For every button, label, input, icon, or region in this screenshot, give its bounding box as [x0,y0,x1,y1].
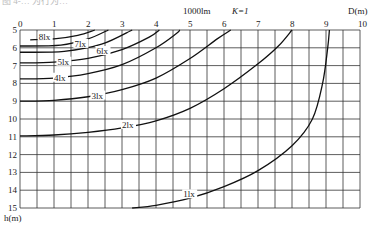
x-tick-label: 1 [52,19,57,29]
curve-label: 7lx [74,39,86,49]
x-tick-label: 7 [256,19,261,29]
y-tick-label: 7 [13,61,18,71]
luminous-flux-label: 1000lm [183,6,211,16]
k-factor-label: K=1 [231,6,249,16]
y-tick-label: 13 [8,167,18,177]
y-tick-label: 6 [13,43,18,53]
x-axis-ticks: 012345678910 [18,19,368,29]
isolux-chart: 012345678910 56789101112131415 8lx7lx6lx… [0,0,378,227]
curve-label: 4lx [54,73,66,83]
x-tick-label: 9 [324,19,329,29]
y-tick-label: 8 [13,78,18,88]
chart-grid [20,30,360,208]
y-tick-label: 9 [13,96,18,106]
y-axis-ticks: 56789101112131415 [8,25,18,213]
curve-label: 2lx [122,120,134,130]
x-tick-label: 10 [358,19,368,29]
curve-label: 8lx [39,32,51,42]
y-tick-label: 11 [8,132,17,142]
x-tick-label: 3 [120,19,125,29]
y-tick-label: 5 [13,25,18,35]
curve-label: 6lx [97,46,109,56]
x-tick-label: 2 [86,19,91,29]
x-tick-label: 6 [222,19,227,29]
y-tick-label: 15 [8,203,18,213]
x-tick-label: 0 [18,19,23,29]
curve-label: 3lx [91,91,103,101]
y-tick-label: 12 [8,150,17,160]
y-axis-label: h(m) [4,213,22,223]
curve-label: 1lx [183,189,195,199]
y-tick-label: 14 [8,185,18,195]
x-axis-label: D(m) [348,6,368,16]
x-tick-label: 5 [188,19,193,29]
x-tick-label: 8 [290,19,295,29]
curve-label: 5lx [57,57,69,67]
y-tick-label: 10 [8,114,18,124]
x-tick-label: 4 [154,19,159,29]
